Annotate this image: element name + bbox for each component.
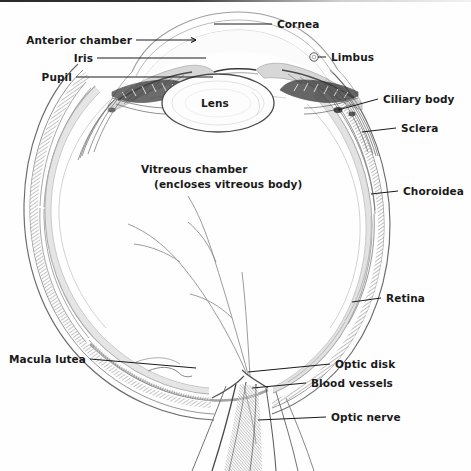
label-anterior-chamber: Anterior chamber [0,34,132,47]
label-cornea: Cornea [277,18,319,31]
label-sclera: Sclera [401,122,438,135]
label-iris: Iris [0,52,93,65]
label-choroidea: Choroidea [403,185,464,198]
label-optic-nerve: Optic nerve [331,411,401,424]
label-macula-lutea: Macula lutea [0,353,86,366]
label-lens: Lens [201,97,229,110]
label-optic-disk: Optic disk [335,358,395,371]
label-pupil: Pupil [0,71,72,84]
blood-vessels [128,196,250,376]
optic-nerve-group [192,370,314,471]
label-blood-vessels: Blood vessels [311,377,393,390]
label-limbus: Limbus [331,51,374,64]
label-retina: Retina [386,292,425,305]
eye-anatomy-diagram: Cornea Anterior chamber Iris Pupil Limbu… [0,0,471,471]
globe-group [24,12,398,471]
label-vitreous-chamber-line1: Vitreous chamber [141,163,248,176]
label-vitreous-chamber-line2: (encloses vitreous body) [154,178,302,191]
label-ciliary-body: Ciliary body [383,93,455,106]
limbus [310,53,318,61]
